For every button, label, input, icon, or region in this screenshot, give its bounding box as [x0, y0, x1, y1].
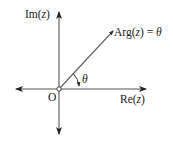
arg-theta: θ: [156, 26, 162, 38]
angle-label: θ: [82, 74, 88, 86]
re-close: ): [141, 93, 145, 105]
im-close: ): [46, 8, 50, 20]
arg-mid: ) =: [140, 26, 156, 38]
argument-label: Arg(z) = θ: [114, 27, 162, 39]
arg-prefix: Arg(: [114, 26, 136, 38]
origin-point: [57, 87, 61, 91]
im-text: Im(: [25, 8, 42, 20]
imaginary-axis-label: Im(z): [25, 9, 50, 21]
real-axis-label: Re(z): [120, 94, 145, 106]
complex-plane-diagram: [0, 0, 173, 142]
re-text: Re(: [120, 93, 137, 105]
angle-arc: [73, 74, 79, 86]
origin-label: O: [48, 92, 56, 104]
